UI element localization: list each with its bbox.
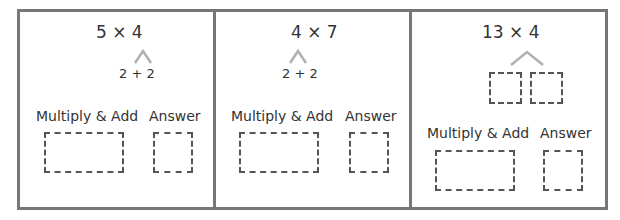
split-input-box-left[interactable] — [489, 72, 522, 104]
panel-divider-2 — [409, 9, 412, 207]
expression: 13 × 4 — [482, 22, 540, 42]
answer-label: Answer — [345, 108, 397, 124]
expression: 5 × 4 — [96, 22, 143, 42]
multiply-add-label: Multiply & Add — [427, 125, 529, 141]
answer-label: Answer — [540, 125, 592, 141]
answer-input-box[interactable] — [153, 132, 193, 173]
multiply-add-input-box[interactable] — [239, 132, 319, 173]
split-caret-icon — [288, 48, 308, 64]
split-input-box-right[interactable] — [530, 72, 563, 104]
split-text: 2 + 2 — [119, 66, 155, 81]
panel-divider-1 — [213, 9, 216, 207]
multiply-add-label: Multiply & Add — [36, 108, 138, 124]
multiply-add-input-box[interactable] — [435, 150, 515, 191]
expression: 4 × 7 — [291, 22, 338, 42]
answer-input-box[interactable] — [543, 150, 583, 191]
multiply-add-input-box[interactable] — [44, 132, 124, 173]
answer-label: Answer — [149, 108, 201, 124]
multiply-add-label: Multiply & Add — [231, 108, 333, 124]
answer-input-box[interactable] — [349, 132, 389, 173]
split-text: 2 + 2 — [282, 66, 318, 81]
split-caret-icon — [133, 48, 153, 64]
split-caret-icon — [509, 50, 545, 66]
